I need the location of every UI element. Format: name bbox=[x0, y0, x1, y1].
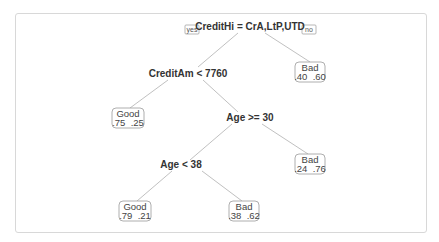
split-node-credit-amount: CreditAm < 7760 bbox=[149, 68, 228, 79]
split-node-age-30: Age >= 30 bbox=[226, 112, 274, 123]
leaf-node-bad-1: Bad .40 .60 bbox=[294, 62, 326, 82]
tree-edge-root-n3 bbox=[265, 33, 310, 62]
leaf-node-good-2: Good .79 .21 bbox=[119, 201, 151, 221]
leaf-node-bad-2: Bad .24 .76 bbox=[294, 154, 326, 174]
leaf-probs: .24 .76 bbox=[294, 163, 326, 174]
tree-edge-n2-n4 bbox=[130, 80, 168, 108]
leaf-node-good-1: Good .75 .25 bbox=[112, 108, 144, 128]
tree-edge-n6-n9 bbox=[202, 171, 242, 201]
leaf-probs: .75 .25 bbox=[112, 117, 144, 128]
split-node-root: CreditHi = CrA,LtP,UTD bbox=[195, 21, 305, 32]
leaf-probs: .40 .60 bbox=[294, 71, 326, 82]
leaf-node-bad-3: Bad .38 .62 bbox=[228, 201, 260, 221]
leaf-probs: .79 .21 bbox=[119, 210, 151, 221]
no-label-text: no bbox=[305, 26, 313, 33]
tree-edge-n5-n6 bbox=[190, 124, 232, 160]
tree-edge-n6-n8 bbox=[137, 171, 172, 201]
tree-edge-root-n2 bbox=[198, 33, 238, 67]
tree-edge-n2-n5 bbox=[203, 80, 238, 112]
split-node-age-38: Age < 38 bbox=[160, 159, 202, 170]
leaf-probs: .38 .62 bbox=[228, 210, 260, 221]
decision-tree: yes no CreditHi = CrA,LtP,UTD CreditAm <… bbox=[0, 0, 439, 242]
tree-edge-n5-n7 bbox=[262, 124, 308, 154]
